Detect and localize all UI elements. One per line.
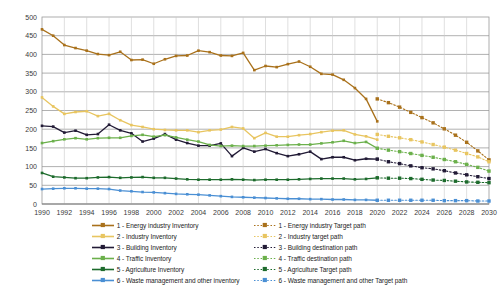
data-point-inventory bbox=[52, 187, 55, 190]
data-point-inventory bbox=[97, 187, 100, 190]
data-point-target bbox=[431, 156, 434, 159]
data-point-inventory bbox=[85, 134, 88, 137]
legend-item-inventory-1[interactable]: 1 - Energy industry Inventory bbox=[92, 220, 240, 231]
data-point-target bbox=[409, 164, 412, 167]
data-point-inventory bbox=[130, 190, 133, 193]
data-point-inventory bbox=[231, 144, 234, 147]
data-point-inventory bbox=[208, 51, 211, 54]
data-point-target bbox=[487, 160, 490, 163]
x-axis-tick-label: 2004 bbox=[191, 209, 207, 216]
legend-item-target-2[interactable]: 2 - Industry target path bbox=[254, 231, 408, 242]
data-point-inventory bbox=[264, 132, 267, 135]
data-point-inventory bbox=[309, 133, 312, 136]
legend-swatch-icon bbox=[92, 254, 114, 263]
data-point-inventory bbox=[208, 129, 211, 132]
data-point-inventory bbox=[320, 73, 323, 76]
data-point-target bbox=[487, 177, 490, 180]
data-point-inventory bbox=[175, 55, 178, 58]
data-point-target bbox=[376, 199, 379, 202]
data-point-target bbox=[387, 199, 390, 202]
data-point-inventory bbox=[85, 187, 88, 190]
data-point-inventory bbox=[208, 178, 211, 181]
data-point-inventory bbox=[85, 49, 88, 52]
y-axis-tick-label: 100 bbox=[25, 163, 37, 170]
data-point-inventory bbox=[197, 178, 200, 181]
legend-item-inventory-2[interactable]: 2 - Industry Inventory bbox=[92, 231, 240, 242]
data-point-inventory bbox=[186, 193, 189, 196]
data-point-inventory bbox=[253, 196, 256, 199]
data-point-inventory bbox=[164, 192, 167, 195]
data-point-inventory bbox=[320, 198, 323, 201]
x-axis-tick-label: 2000 bbox=[146, 209, 162, 216]
legend-label: 1 - Energy industry Target path bbox=[279, 222, 366, 229]
data-point-inventory bbox=[108, 188, 111, 191]
data-point-target bbox=[476, 199, 479, 202]
data-point-inventory bbox=[130, 132, 133, 135]
data-point-inventory bbox=[41, 96, 44, 99]
data-point-inventory bbox=[97, 137, 100, 140]
data-point-inventory bbox=[164, 129, 167, 132]
data-point-inventory bbox=[41, 142, 44, 145]
data-point-inventory bbox=[331, 198, 334, 201]
y-axis-tick-label: 500 bbox=[25, 14, 37, 21]
legend-item-target-4[interactable]: 4 - Traffic destination path bbox=[254, 253, 408, 264]
legend-item-target-6[interactable]: 6 - Waste management and other Target pa… bbox=[254, 275, 408, 286]
legend-item-inventory-4[interactable]: 4 - Traffic Inventory bbox=[92, 253, 240, 264]
data-point-target bbox=[465, 163, 468, 166]
data-point-inventory bbox=[275, 144, 278, 147]
data-point-inventory bbox=[354, 87, 357, 90]
legend-label: 1 - Energy industry Inventory bbox=[117, 222, 199, 229]
data-point-inventory bbox=[186, 54, 189, 57]
x-axis-tick-label: 2012 bbox=[280, 209, 296, 216]
data-point-inventory bbox=[41, 28, 44, 31]
x-axis-tick-label: 1996 bbox=[101, 209, 117, 216]
legend-swatch-icon bbox=[92, 276, 114, 285]
legend-item-target-5[interactable]: 5 - Agriculture Target path bbox=[254, 264, 408, 275]
legend-item-inventory-6[interactable]: 6 - Waste management and other inventory bbox=[92, 275, 240, 286]
data-point-inventory bbox=[130, 124, 133, 127]
legend-label: 4 - Traffic destination path bbox=[279, 255, 352, 262]
data-point-inventory bbox=[152, 177, 155, 180]
data-point-inventory bbox=[74, 111, 77, 114]
data-point-inventory bbox=[331, 177, 334, 180]
data-point-inventory bbox=[74, 137, 77, 140]
data-point-target bbox=[431, 178, 434, 181]
data-point-target bbox=[398, 150, 401, 153]
data-point-target bbox=[376, 147, 379, 150]
data-point-inventory bbox=[242, 196, 245, 199]
x-axis-tick-label: 2022 bbox=[392, 209, 408, 216]
legend-item-inventory-3[interactable]: 3 - Building Inventory bbox=[92, 242, 240, 253]
data-point-inventory bbox=[231, 196, 234, 199]
x-axis-tick-label: 2010 bbox=[258, 209, 274, 216]
data-point-target bbox=[431, 199, 434, 202]
data-point-target bbox=[465, 141, 468, 144]
data-point-inventory bbox=[264, 197, 267, 200]
data-point-inventory bbox=[354, 178, 357, 181]
data-point-target bbox=[443, 169, 446, 172]
data-point-inventory bbox=[164, 134, 167, 137]
plot-area: 0501001502002503003504004505001990199219… bbox=[0, 0, 499, 216]
data-point-target bbox=[420, 140, 423, 143]
data-point-inventory bbox=[264, 144, 267, 147]
data-point-inventory bbox=[108, 123, 111, 126]
legend-swatch-icon bbox=[92, 265, 114, 274]
data-point-inventory bbox=[298, 134, 301, 137]
data-point-inventory bbox=[275, 66, 278, 69]
data-point-inventory bbox=[320, 177, 323, 180]
x-axis-tick-label: 1992 bbox=[57, 209, 73, 216]
data-point-inventory bbox=[220, 195, 223, 198]
data-point-inventory bbox=[141, 176, 144, 179]
legend-item-target-1[interactable]: 1 - Energy industry Target path bbox=[254, 220, 408, 231]
legend-label: 5 - Agriculture Inventory bbox=[117, 266, 184, 273]
legend-label: 2 - Industry target path bbox=[279, 233, 343, 240]
data-point-target bbox=[376, 133, 379, 136]
legend-label: 2 - Industry Inventory bbox=[117, 233, 177, 240]
data-point-inventory bbox=[119, 50, 122, 53]
legend-label: 5 - Agriculture Target path bbox=[279, 266, 352, 273]
data-point-target bbox=[487, 199, 490, 202]
legend-item-target-3[interactable]: 3 - Building destination path bbox=[254, 242, 408, 253]
data-point-inventory bbox=[309, 178, 312, 181]
data-point-inventory bbox=[141, 58, 144, 61]
legend-item-inventory-5[interactable]: 5 - Agriculture Inventory bbox=[92, 264, 240, 275]
data-point-inventory bbox=[342, 129, 345, 132]
